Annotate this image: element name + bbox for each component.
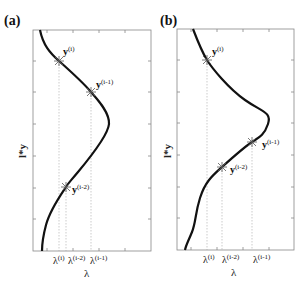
marker-star-icon: [247, 137, 257, 147]
panel-b-xlabel: λ: [231, 266, 237, 278]
panel-b-xtick-lambda-i: λ(i): [203, 253, 215, 265]
panel-a-y-i1-label: y(i-1): [96, 78, 114, 90]
marker-star-icon: [86, 87, 96, 97]
panel-a-y-i-label: y(i): [63, 45, 75, 57]
panel-b-y-i-label: y(i): [212, 45, 224, 57]
panel-a-xtick-lambda-i: λ(i): [53, 254, 65, 266]
panel-a-xtick-lambda-i1: λ(i-1): [90, 254, 108, 266]
panel-b-y-i2-label: y(i-2): [230, 163, 248, 175]
panel-b: (b) y(i) y(i-1) y(i-2) λ(i): [160, 13, 294, 278]
panel-b-guides: [207, 60, 252, 250]
marker-star-icon: [202, 55, 212, 65]
panel-a-xtick-lambda-i2: λ(i-2): [68, 254, 86, 266]
marker-star-icon: [54, 56, 64, 66]
panel-b-ylabel: l*y: [161, 143, 173, 158]
panel-a-frame: [33, 30, 151, 251]
panel-a-curve: [40, 30, 109, 251]
figure: (a) y(i) y(i-1): [0, 0, 308, 292]
panel-a-ylabel: l*y: [16, 143, 28, 158]
panel-b-y-i1-label: y(i-1): [262, 138, 280, 150]
marker-star-icon: [217, 162, 227, 172]
panel-a-label: (a): [4, 13, 21, 29]
panel-a-ticks: [33, 30, 151, 251]
panel-b-markers: [202, 55, 257, 172]
panel-b-xtick-lambda-i1: λ(i-1): [253, 253, 271, 265]
panel-b-xtick-lambda-i2: λ(i-2): [222, 253, 240, 265]
panel-b-curve: [185, 29, 269, 250]
panel-a-xlabel: λ: [84, 267, 90, 279]
panel-a-y-i2-label: y(i-2): [72, 183, 90, 195]
panel-b-label: (b): [160, 13, 177, 29]
panel-a-guides: [59, 61, 91, 251]
marker-star-icon: [61, 182, 71, 192]
panel-a: (a) y(i) y(i-1): [4, 13, 151, 279]
